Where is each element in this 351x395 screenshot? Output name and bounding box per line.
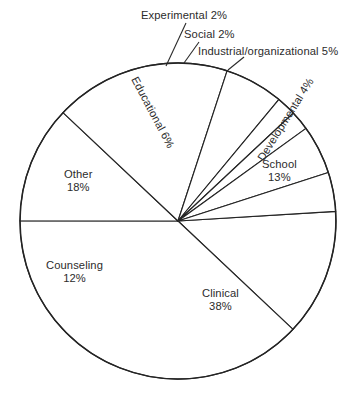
pie-label-name-clinical: Clinical (202, 287, 239, 300)
pie-label-experimental: Experimental 2% (141, 9, 227, 22)
pie-label-clinical: Clinical38% (202, 287, 239, 313)
leader-line-experimental (166, 23, 186, 66)
pie-label-text-experimental: Experimental 2% (141, 9, 227, 21)
pie-label-industrial-organizational: Industrial/organizational 5% (198, 45, 338, 58)
pie-label-value-other: 18% (64, 181, 92, 194)
pie-label-text-industrial-organizational: Industrial/organizational 5% (198, 45, 338, 57)
pie-label-counseling: Counseling12% (46, 259, 103, 285)
leader-line-social (184, 42, 199, 63)
pie-label-value-counseling: 12% (46, 272, 103, 285)
pie-chart: School13%Clinical38%Counseling12%Other18… (0, 0, 351, 395)
pie-label-social: Social 2% (184, 28, 235, 41)
leader-line-industrial-organizational (228, 57, 244, 70)
pie-label-text-social: Social 2% (184, 28, 235, 40)
pie-label-value-school: 13% (262, 171, 297, 184)
pie-label-other: Other18% (64, 168, 92, 194)
pie-label-value-clinical: 38% (202, 300, 239, 313)
pie-label-name-other: Other (64, 168, 92, 181)
pie-chart-svg (0, 0, 351, 395)
pie-label-school: School13% (262, 158, 297, 184)
pie-label-name-counseling: Counseling (46, 259, 103, 272)
